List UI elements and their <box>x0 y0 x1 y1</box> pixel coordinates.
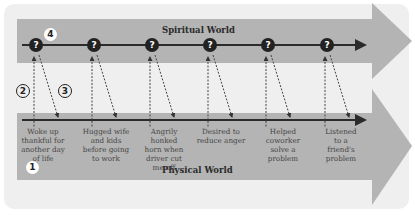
node-question-4: ? <box>204 39 216 51</box>
event-label-6: Listened to a friend's problem <box>321 127 361 163</box>
node-question-5: ? <box>262 39 274 51</box>
event-label-2: Hugged wife and kids before going to wor… <box>79 127 133 163</box>
dashed-connectors <box>34 55 349 120</box>
event-label-4: Desired to reduce anger <box>196 127 246 145</box>
node-question-2: ? <box>88 39 100 51</box>
node-question-6: ? <box>321 39 333 51</box>
callout-badge-3: 3 <box>58 84 72 98</box>
event-label-1: Woke up thankful for another day of life <box>19 127 67 163</box>
callout-badge-4: 4 <box>44 28 57 41</box>
spiritual-world-title: Spiritual World <box>162 25 235 35</box>
callout-badge-2: 2 <box>16 84 30 98</box>
node-question-1: ? <box>30 39 42 51</box>
node-question-3: ? <box>146 39 158 51</box>
callout-badge-1: 1 <box>26 161 39 174</box>
event-label-5: Helped coworker solve a problem <box>256 127 310 163</box>
event-label-3: Angrily honked horn when driver cut me o… <box>141 127 187 172</box>
